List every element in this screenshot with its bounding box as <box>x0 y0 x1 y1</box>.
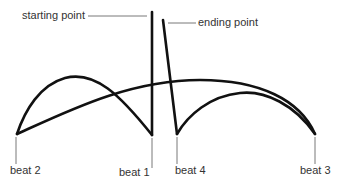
beat3-to-beat4-arc <box>177 93 315 134</box>
beat2-label: beat 2 <box>10 165 41 176</box>
conducting-pattern-diagram <box>0 0 340 186</box>
starting-point-label: starting point <box>22 10 85 21</box>
ending-point-label: ending point <box>198 17 258 28</box>
beat1-label: beat 1 <box>119 167 150 178</box>
beat2-to-beat3-arc <box>17 80 315 134</box>
upbeat-stroke <box>163 20 177 134</box>
beat3-label: beat 3 <box>300 165 331 176</box>
beat4-label: beat 4 <box>175 165 206 176</box>
